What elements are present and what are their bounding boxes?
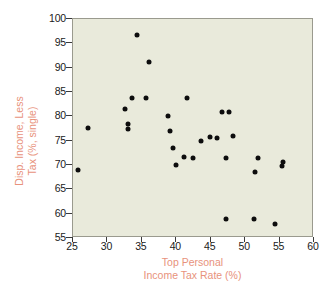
data-point — [129, 95, 134, 100]
data-point — [147, 59, 152, 64]
data-point — [184, 95, 189, 100]
data-point — [224, 216, 229, 221]
data-point — [165, 114, 170, 119]
data-point — [76, 167, 81, 172]
y-axis-label-line-1: Disp. Income, Less — [13, 81, 26, 201]
data-point — [220, 110, 225, 115]
y-tick-label: 100 — [36, 12, 66, 24]
y-axis-label: Disp. Income, Less Tax (%, single) — [13, 81, 39, 201]
data-point — [173, 163, 178, 168]
data-point — [231, 133, 236, 138]
data-point — [123, 107, 128, 112]
y-tick-label: 75 — [36, 134, 66, 146]
data-point — [280, 160, 285, 165]
plot-area — [72, 18, 313, 237]
y-tick-mark — [66, 67, 72, 68]
y-tick-label: 95 — [36, 36, 66, 48]
y-tick-mark — [66, 115, 72, 116]
data-point — [224, 156, 229, 161]
data-point — [280, 164, 285, 169]
data-point — [143, 95, 148, 100]
data-point — [252, 216, 257, 221]
x-axis-label-line-1: Top Personal — [72, 256, 313, 269]
y-tick-label: 65 — [36, 182, 66, 194]
data-point — [182, 154, 187, 159]
y-tick-mark — [66, 18, 72, 19]
x-tick-label: 25 — [66, 240, 77, 252]
x-axis-label: Top Personal Income Tax Rate (%) — [72, 256, 313, 282]
data-point — [208, 135, 213, 140]
data-point — [191, 155, 196, 160]
x-tick-label: 45 — [204, 240, 215, 252]
x-axis-label-line-2: Income Tax Rate (%) — [72, 269, 313, 282]
x-tick-label: 60 — [307, 240, 318, 252]
data-point — [255, 155, 260, 160]
data-point — [167, 128, 172, 133]
y-tick-label: 60 — [36, 207, 66, 219]
y-tick-mark — [66, 213, 72, 214]
y-axis-label-line-2: Tax (%, single) — [26, 81, 39, 201]
x-tick-label: 35 — [135, 240, 146, 252]
data-point — [199, 138, 204, 143]
data-point — [273, 222, 278, 227]
data-point — [171, 146, 176, 151]
y-tick-mark — [66, 164, 72, 165]
y-tick-mark — [66, 140, 72, 141]
y-tick-mark — [66, 42, 72, 43]
data-point — [226, 110, 231, 115]
y-tick-label: 70 — [36, 158, 66, 170]
y-tick-mark — [66, 91, 72, 92]
x-tick-label: 40 — [170, 240, 181, 252]
y-tick-label: 85 — [36, 85, 66, 97]
y-tick-label: 90 — [36, 61, 66, 73]
scatter-chart: 556065707580859095100 2530354045505560 D… — [0, 0, 331, 292]
y-tick-label: 55 — [36, 231, 66, 243]
data-point — [134, 33, 139, 38]
data-point — [85, 125, 90, 130]
x-tick-label: 55 — [273, 240, 284, 252]
x-tick-label: 50 — [239, 240, 250, 252]
data-point — [215, 135, 220, 140]
y-tick-label: 80 — [36, 109, 66, 121]
data-point — [125, 126, 130, 131]
x-tick-label: 30 — [101, 240, 112, 252]
y-tick-mark — [66, 188, 72, 189]
data-point — [253, 170, 258, 175]
